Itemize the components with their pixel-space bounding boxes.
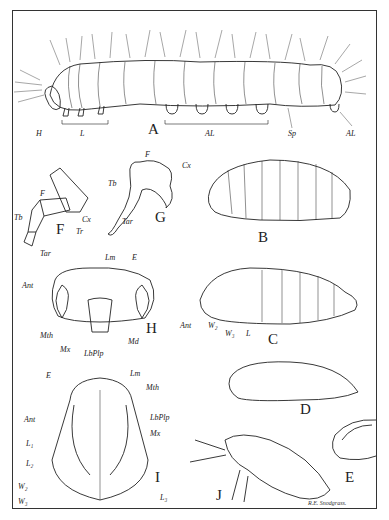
figure-letter-d: D	[300, 402, 311, 417]
label-c-wing2: W₂	[208, 322, 217, 330]
larval-head-drawing	[52, 268, 154, 332]
label-h-labrum: Lm	[105, 254, 115, 262]
label-i-mouth: Mth	[146, 384, 159, 392]
label-i-maxilla: Mx	[150, 430, 160, 438]
label-f-tarsus: Tar	[40, 250, 51, 258]
label-i-antenna: Ant	[24, 416, 35, 424]
label-a-legs: L	[80, 130, 84, 138]
label-h-mandible: Md	[128, 338, 139, 346]
label-i-wing2: W₂	[18, 483, 27, 491]
label-h-mouth: Mth	[40, 332, 53, 340]
label-f-tibia: Tb	[14, 214, 22, 222]
label-i-leg2: L₂	[26, 460, 33, 468]
figure-letter-c: C	[268, 332, 278, 347]
figure-letter-i: I	[155, 470, 160, 485]
label-i-wing3: W₃	[18, 498, 27, 506]
label-c-wing3: W₃	[225, 330, 234, 338]
figure-letter-g: G	[155, 210, 166, 225]
label-g-tarsus: Tar	[122, 218, 133, 226]
figure-letter-a: A	[148, 122, 159, 137]
label-a-head: H	[36, 130, 42, 138]
label-h-maxilla: Mx	[60, 346, 70, 354]
label-f-femur: F	[40, 190, 45, 198]
label-f-trochanter: Tr	[76, 228, 83, 236]
label-i-eye: E	[46, 372, 51, 380]
figure-letter-j: J	[216, 488, 222, 503]
pupa-ventral-drawing	[52, 378, 148, 500]
figure-letter-b: B	[258, 230, 268, 245]
label-g-femur: F	[145, 151, 150, 159]
label-c-antenna: Ant	[180, 322, 191, 330]
illustration-art	[0, 0, 389, 520]
label-i-leg1: L₁	[26, 440, 33, 448]
label-h-eye: E	[132, 254, 137, 262]
label-g-coxa: Cx	[182, 162, 191, 170]
label-a-anal-legs: AL	[346, 130, 355, 138]
label-h-labial-palp: LbPlp	[84, 350, 104, 358]
label-i-labial-palp: LbPlp	[150, 414, 170, 422]
label-i-leg3: L₃	[160, 494, 167, 502]
grub-larva-drawing	[208, 160, 350, 221]
figure-letter-h: H	[146, 321, 157, 336]
label-f-coxa: Cx	[82, 216, 91, 224]
artist-signature: R.E. Snodgrass.	[308, 500, 346, 506]
moth-drawing	[190, 435, 330, 502]
label-i-labrum: Lm	[130, 370, 140, 378]
cocoon-drawing	[332, 420, 376, 460]
label-g-tibia: Tb	[108, 180, 116, 188]
label-a-spiracle: Sp	[288, 130, 296, 138]
pupa-side-drawing	[200, 268, 357, 324]
pupa-in-cocoon-drawing	[229, 362, 358, 401]
figure-letter-f: F	[56, 222, 64, 237]
figure-letter-e: E	[345, 470, 354, 485]
label-c-leg: L	[246, 330, 250, 338]
caterpillar-drawing	[14, 30, 366, 128]
label-h-antenna: Ant	[22, 282, 33, 290]
label-a-abdominal-legs: AL	[205, 130, 214, 138]
